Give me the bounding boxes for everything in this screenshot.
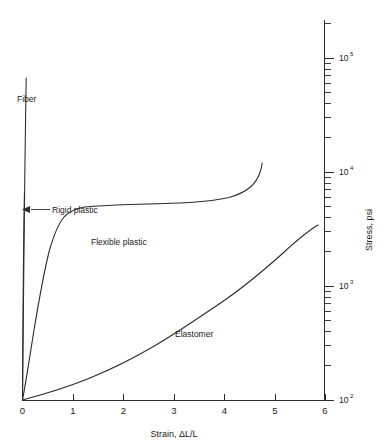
rigid-plastic-arrow-icon: [22, 206, 30, 213]
curves-group: [23, 78, 319, 400]
curve-label-fiber: Fiber: [17, 94, 37, 104]
x-tick-label-0: 0: [20, 405, 25, 416]
curve-label-elastomer: Elastomer: [175, 329, 213, 339]
curve-label-rigid-plastic: Rigid plastic: [52, 205, 99, 215]
curve-elastomer: [23, 225, 319, 400]
y-tick-base-1e5: 10: [339, 53, 349, 63]
curve-labels-group: Fiber Rigid plastic Flexible plastic Ela…: [17, 94, 213, 339]
y-axis-minor-ticks: [325, 24, 331, 366]
y-tick-label-1e3: 10 3: [339, 279, 354, 291]
y-axis-major-ticks: [325, 58, 334, 400]
y-tick-base-1e2: 10: [339, 395, 349, 405]
x-tick-label-6: 6: [322, 405, 327, 416]
y-tick-label-1e2: 10 2: [339, 393, 354, 405]
curve-label-flexible-plastic: Flexible plastic: [91, 237, 147, 247]
x-axis-ticks: [23, 394, 326, 400]
annotation-leaders: [22, 206, 50, 213]
x-tick-label-3: 3: [171, 405, 176, 416]
y-tick-label-1e5: 10 5: [339, 51, 354, 63]
curve-flexible-plastic: [23, 163, 263, 400]
x-tick-label-5: 5: [272, 405, 277, 416]
y-tick-exponent-1e4: 4: [350, 165, 354, 171]
x-axis-title: Strain, ΔL/L: [150, 429, 197, 439]
curve-rigid-plastic: [23, 193, 25, 400]
y-tick-exponent-1e5: 5: [350, 51, 354, 57]
stress-strain-chart: 0 1 2 3 4 5 6: [0, 0, 383, 446]
y-tick-exponent-1e2: 2: [350, 393, 354, 399]
x-tick-label-4: 4: [222, 405, 227, 416]
y-axis-title: Stress, psi: [364, 209, 374, 251]
y-tick-base-1e3: 10: [339, 281, 349, 291]
x-tick-label-2: 2: [121, 405, 126, 416]
x-axis-tick-labels: 0 1 2 3 4 5 6: [20, 405, 328, 416]
y-tick-exponent-1e3: 3: [350, 279, 354, 285]
y-tick-label-1e4: 10 4: [339, 165, 354, 177]
y-axis-tick-labels: 10 2 10 3 10 4 10 5: [339, 51, 354, 405]
x-tick-label-1: 1: [70, 405, 75, 416]
stress-strain-figure: 0 1 2 3 4 5 6: [0, 0, 383, 446]
y-tick-base-1e4: 10: [339, 167, 349, 177]
